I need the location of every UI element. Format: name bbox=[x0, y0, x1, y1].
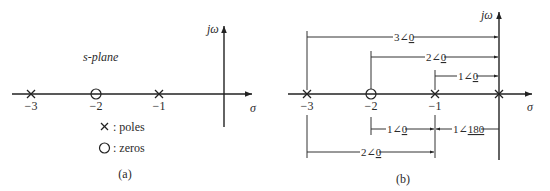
vector-origin-to-minus1: 1∠180 bbox=[436, 123, 499, 135]
vector-minus2-to-minus1: 1∠0 bbox=[371, 117, 434, 135]
vector-label: 1∠180 bbox=[453, 123, 485, 135]
legend-zero-icon bbox=[100, 143, 110, 153]
caption-a: (a) bbox=[118, 167, 131, 181]
imaginary-axis-label: jω bbox=[479, 8, 493, 22]
caption-b: (b) bbox=[396, 172, 410, 186]
tick-label-minus-1: −1 bbox=[429, 99, 442, 113]
vector-label: 2∠0 bbox=[361, 146, 382, 158]
vector-1-to-origin: 1∠0 bbox=[435, 70, 498, 90]
tick-label-minus-2: −2 bbox=[90, 99, 103, 113]
legend-poles-label: : poles bbox=[113, 120, 145, 134]
real-axis-label: σ bbox=[250, 101, 257, 115]
tick-label-minus-1: −1 bbox=[153, 99, 166, 113]
tick-label-minus-2: −2 bbox=[365, 99, 378, 113]
vector-label: 1∠0 bbox=[387, 123, 408, 135]
legend: : poles : zeros bbox=[100, 120, 145, 155]
vector-label: 3∠0 bbox=[394, 31, 415, 43]
vector-label: 1∠0 bbox=[458, 70, 479, 82]
pole-zero-diagram: jω σ s-plane −3 −2 −1 : poles bbox=[0, 0, 550, 191]
tick-label-minus-3: −3 bbox=[25, 99, 38, 113]
tick-label-minus-3: −3 bbox=[301, 99, 314, 113]
panel-b: jω σ −3 −2 −1 3∠0 bbox=[288, 8, 534, 186]
legend-zeros-label: : zeros bbox=[113, 141, 145, 155]
real-axis-label: σ bbox=[527, 100, 534, 114]
legend-pole-icon bbox=[101, 123, 108, 130]
vector-label: 2∠0 bbox=[426, 51, 447, 63]
imaginary-axis-label: jω bbox=[205, 22, 219, 36]
s-plane-label: s-plane bbox=[83, 50, 119, 64]
panel-a: jω σ s-plane −3 −2 −1 : poles bbox=[12, 22, 257, 181]
